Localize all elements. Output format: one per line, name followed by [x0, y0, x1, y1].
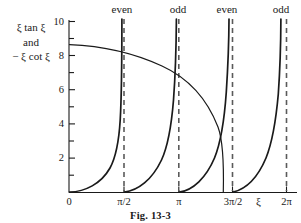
figure-13-3: ξ tan ξ and − ξ cot ξ — [0, 0, 301, 223]
plot-area — [0, 0, 301, 223]
curve-circle-arc — [70, 45, 224, 192]
y-tick-label-2: 2 — [38, 152, 64, 163]
annotation-even-1: even — [100, 4, 144, 15]
annotation-even-2: even — [205, 4, 249, 15]
curve-odd-branch-1 — [124, 19, 176, 192]
curve-even-branch-2 — [179, 19, 229, 192]
x-tick-label-2pi: 2π — [274, 196, 299, 207]
y-tick-label-6: 6 — [38, 84, 64, 95]
x-tick-label-pi-over-2: π/2 — [110, 196, 138, 207]
x-axis-ticks — [124, 187, 287, 193]
annotation-odd-1: odd — [156, 4, 200, 15]
x-tick-label-pi: π — [167, 196, 191, 207]
x-tick-label-0: 0 — [58, 196, 80, 207]
y-tick-label-10: 10 — [38, 16, 64, 27]
y-tick-label-8: 8 — [38, 50, 64, 61]
x-tick-label-3pi-over-2: 3π/2 — [216, 196, 250, 207]
curve-odd-branch-2 — [233, 19, 281, 192]
figure-caption: Fig. 13-3 — [0, 210, 301, 221]
y-tick-label-4: 4 — [38, 118, 64, 129]
curves — [70, 19, 281, 192]
annotation-odd-2: odd — [259, 4, 301, 15]
x-axis-name: ξ — [256, 196, 261, 207]
